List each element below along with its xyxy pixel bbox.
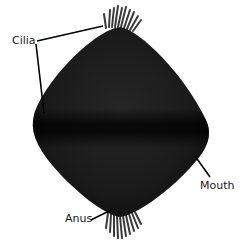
cilia-leader-top [37, 26, 103, 41]
diagram-canvas: Cilia Mouth Anus [0, 0, 246, 250]
top-cilia-tuft [104, 6, 141, 31]
anus-label: Anus [65, 213, 92, 224]
mouth-leader [195, 156, 210, 177]
organism-illustration [0, 0, 246, 250]
mouth-label: Mouth [200, 180, 234, 191]
cilia-label: Cilia [12, 35, 36, 46]
body-band [20, 108, 220, 148]
